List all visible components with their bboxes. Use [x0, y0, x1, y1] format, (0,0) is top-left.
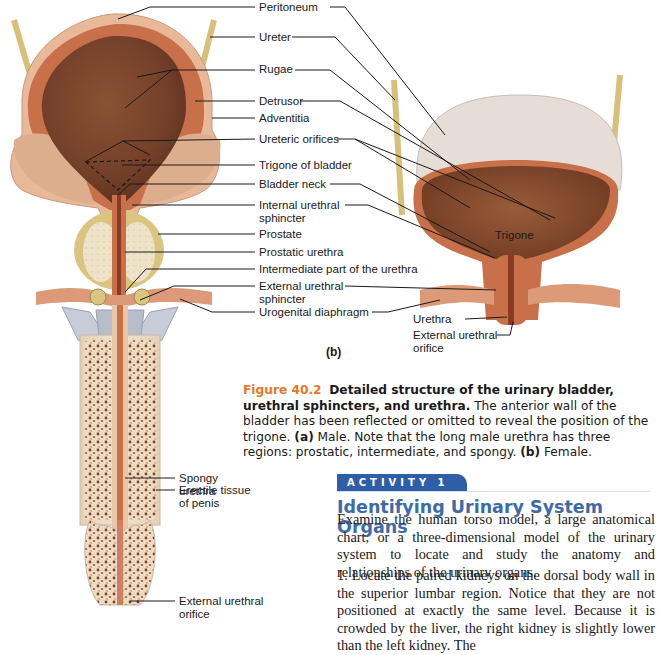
figure-caption: Figure 40.2 Detailed structure of the ur…: [243, 383, 661, 461]
penis-shaft: [80, 305, 160, 605]
female-bladder: [413, 95, 621, 325]
panel-b-letter: (b): [326, 345, 341, 359]
label-external-urethral-orifice-a: External urethral orifice: [179, 595, 269, 621]
ureter-b-left: [394, 80, 402, 215]
label-ureter: Ureter: [259, 31, 291, 44]
label-peritoneum: Peritoneum: [259, 1, 318, 14]
caption-text-3: Female.: [540, 445, 592, 459]
label-bladder-neck: Bladder neck: [259, 178, 326, 191]
label-ureteric-orifices: Ureteric orifices: [259, 133, 339, 146]
label-rugae: Rugae: [259, 63, 293, 76]
label-detrusor: Detrusor: [259, 95, 303, 108]
label-external-urethral-orifice-b: External urethral orifice: [413, 329, 503, 355]
label-external-urethral-sphincter: External urethral sphincter: [259, 280, 349, 306]
activity-badge: ACTIVITY 1: [337, 474, 467, 491]
activity-divider: [337, 491, 650, 492]
label-intermediate-urethra: Intermediate part of the urethra: [259, 263, 418, 276]
label-urethra-b: Urethra: [413, 313, 451, 326]
figure-number: Figure 40.2: [243, 383, 322, 397]
label-trigone-of-bladder: Trigone of bladder: [259, 159, 352, 172]
label-trigone: Trigone: [495, 229, 534, 242]
label-internal-urethral-sphincter: Internal urethral sphincter: [259, 199, 349, 225]
label-urogenital-diaphragm: Urogenital diaphragm: [259, 306, 369, 319]
label-prostatic-urethra: Prostatic urethra: [259, 246, 343, 259]
caption-b-label: (b): [520, 445, 540, 459]
label-prostate: Prostate: [259, 228, 302, 241]
activity-step-1: 1. Locate the paired kidneys on the dors…: [337, 567, 655, 655]
label-adventitia: Adventitia: [259, 112, 310, 125]
caption-a-label: (a): [294, 430, 313, 444]
label-erectile-tissue: Erectile tissue of penis: [179, 484, 259, 510]
